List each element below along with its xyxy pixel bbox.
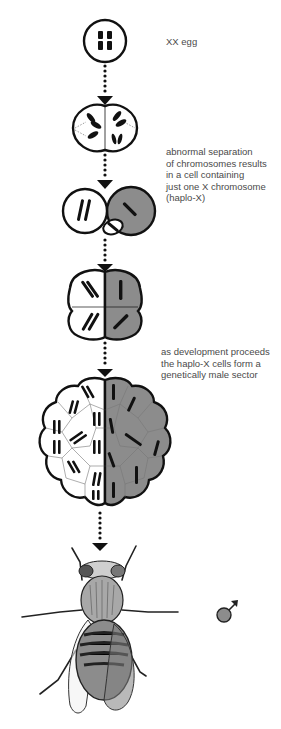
arrow-down-icon — [97, 238, 113, 272]
arrow-down-icon — [97, 64, 113, 105]
four-cell-stage — [68, 270, 141, 339]
arrow-down-icon — [97, 341, 113, 377]
egg-label: XX egg — [166, 36, 197, 48]
male-symbol-icon — [217, 600, 238, 622]
arrow-down-icon — [92, 511, 108, 551]
haplo-x-division-stage — [63, 187, 155, 237]
two-cell-stage — [73, 105, 137, 151]
male-sector-label: as development proceeds the haplo-X cell… — [161, 346, 270, 381]
haplo-x-label: abnormal separation of chromosomes resul… — [166, 146, 267, 204]
multicell-stage — [40, 378, 171, 505]
arrow-down-icon — [97, 153, 113, 189]
gynandromorph-fly-illustration — [22, 546, 178, 713]
egg-cell — [84, 20, 126, 62]
